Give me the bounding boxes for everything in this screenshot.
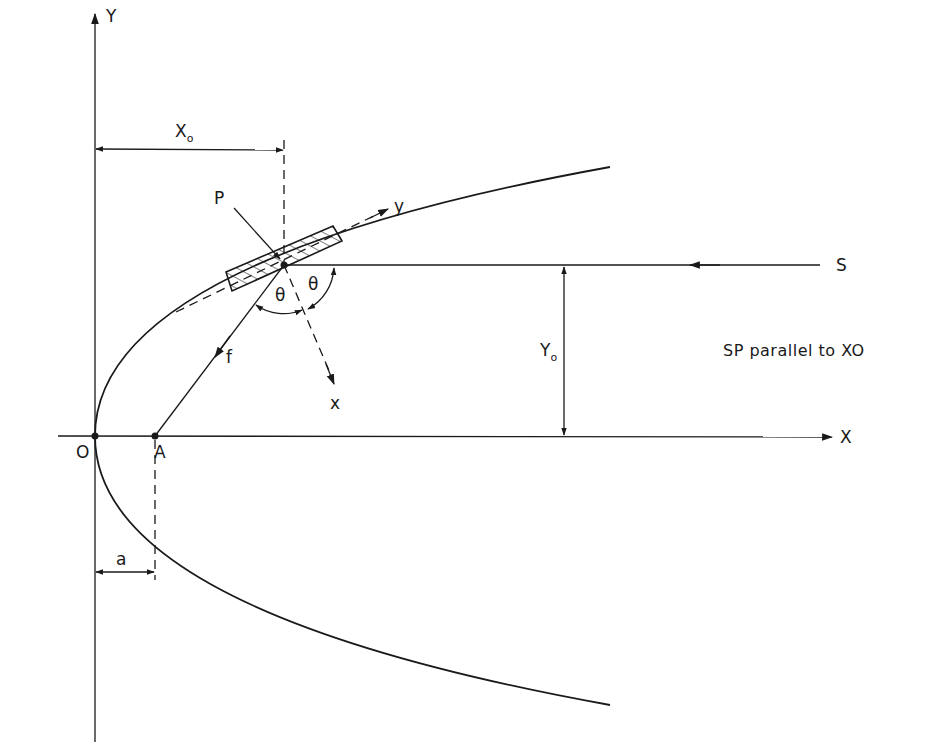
p-pointer-line <box>234 208 280 259</box>
dimension-x0-label: Xo <box>175 121 194 145</box>
dimension-x0-arrow <box>96 149 283 150</box>
origin-label: O <box>76 442 89 462</box>
p-label: P <box>214 188 224 208</box>
parabolic-reflector-diagram: Y X O A a Xo S Yo SP parallel to XO f y … <box>0 0 946 755</box>
y-axis-label: Y <box>105 6 117 26</box>
focus-label: A <box>154 442 166 462</box>
angle-arc-incidence <box>256 305 302 314</box>
local-x-axis-arrow <box>326 364 334 384</box>
dimension-a-label: a <box>116 549 126 569</box>
angle-theta-right: θ <box>308 274 318 294</box>
parallel-note: SP parallel to XO <box>723 341 865 360</box>
focal-length-label: f <box>226 347 233 367</box>
dimension-y0-label: Yo <box>539 340 557 364</box>
reflector-point <box>281 262 288 269</box>
angle-theta-left: θ <box>275 285 285 305</box>
source-label: S <box>836 255 847 275</box>
local-y-axis-arrow <box>370 209 388 218</box>
local-x-label: x <box>330 393 340 413</box>
origin-point <box>92 433 99 440</box>
x-axis-label: X <box>840 427 852 447</box>
x-axis <box>58 436 832 437</box>
local-y-label: y <box>394 196 404 216</box>
